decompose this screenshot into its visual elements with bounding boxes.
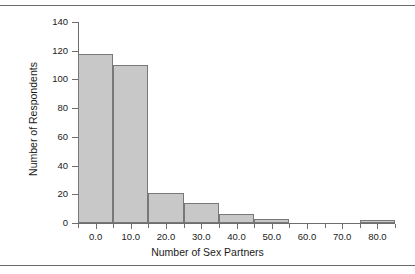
y-tick-label: 100: [52, 74, 68, 83]
x-tick-label: 0.0: [89, 232, 102, 242]
y-tick-label: 0: [63, 218, 68, 227]
x-tick: [342, 224, 343, 229]
x-tick: [96, 224, 97, 229]
y-tick: [72, 51, 78, 52]
x-tick-minor: [360, 224, 361, 228]
histogram-bar: [254, 219, 289, 223]
x-tick-label: 20.0: [157, 232, 176, 242]
x-tick-label: 10.0: [122, 232, 141, 242]
x-tick: [307, 224, 308, 229]
y-tick-label: 40: [57, 161, 68, 170]
x-tick-label: 70.0: [333, 232, 352, 242]
y-tick-label: 120: [52, 46, 68, 55]
x-tick-label: 80.0: [368, 232, 387, 242]
x-tick: [272, 224, 273, 229]
x-tick-minor: [219, 224, 220, 228]
histogram-bar: [184, 203, 219, 223]
x-axis-title: Number of Sex Partners: [0, 246, 415, 258]
histogram-bar: [78, 54, 113, 223]
x-tick: [201, 224, 202, 229]
x-tick-minor: [289, 224, 290, 228]
histogram-bar: [219, 214, 254, 223]
x-tick: [237, 224, 238, 229]
y-tick: [72, 22, 78, 23]
x-tick: [377, 224, 378, 229]
x-tick-minor: [184, 224, 185, 228]
figure-screenshot: 020406080100120140 0.010.020.030.040.050…: [0, 0, 415, 274]
x-tick-label: 50.0: [262, 232, 281, 242]
histogram-bar: [113, 65, 148, 223]
figure-bottom-rule: [0, 265, 415, 266]
y-tick-label: 140: [52, 17, 68, 26]
x-tick-minor: [78, 224, 79, 228]
y-axis-title: Number of Respondents: [27, 14, 39, 224]
x-tick: [166, 224, 167, 229]
x-tick-minor: [395, 224, 396, 228]
histogram-bar: [148, 193, 183, 223]
histogram-bar: [360, 220, 395, 223]
x-tick-label: 30.0: [192, 232, 211, 242]
y-tick-label: 60: [57, 132, 68, 141]
y-tick-label: 80: [57, 103, 68, 112]
x-tick-minor: [113, 224, 114, 228]
y-tick-label: 20: [57, 189, 68, 198]
figure-top-rule: [0, 5, 415, 6]
x-tick-label: 40.0: [227, 232, 246, 242]
x-tick-minor: [254, 224, 255, 228]
x-tick: [131, 224, 132, 229]
x-tick-minor: [148, 224, 149, 228]
x-tick-minor: [325, 224, 326, 228]
x-tick-label: 60.0: [298, 232, 317, 242]
